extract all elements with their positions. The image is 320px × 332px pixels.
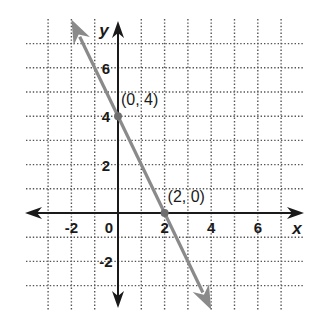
point-marker xyxy=(114,112,122,120)
y-tick-label: 2 xyxy=(102,157,110,174)
point-labels: (0, 4)(2, 0) xyxy=(114,91,205,217)
x-tick-label: 2 xyxy=(160,219,168,236)
coordinate-plane: -20246-2246xy (0, 4)(2, 0) xyxy=(0,0,320,332)
x-axis-label: x xyxy=(291,219,303,238)
x-tick-label: 0 xyxy=(105,219,113,236)
y-tick-label: -2 xyxy=(99,253,112,270)
point-label: (0, 4) xyxy=(121,91,158,108)
y-axis-label: y xyxy=(98,21,110,40)
grid-lines xyxy=(26,19,304,310)
y-tick-label: 6 xyxy=(102,60,110,77)
x-tick-label: -2 xyxy=(65,219,78,236)
x-tick-label: 6 xyxy=(254,219,262,236)
point-label: (2, 0) xyxy=(168,188,205,205)
point-marker xyxy=(161,209,169,217)
y-tick-label: 4 xyxy=(102,108,111,125)
x-tick-label: 4 xyxy=(207,219,216,236)
tick-labels: -20246-2246xy xyxy=(65,21,304,270)
